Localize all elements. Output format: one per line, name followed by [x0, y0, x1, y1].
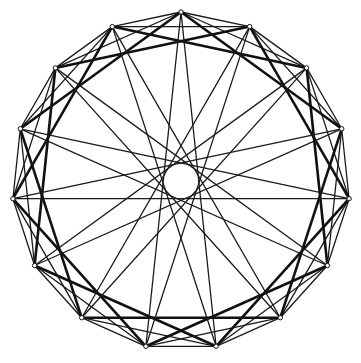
- edge-step-7: [55, 68, 327, 266]
- edge-step-3: [35, 266, 217, 347]
- edge-step-3: [181, 12, 342, 129]
- vertices-group: [11, 10, 352, 349]
- edge-step-3: [216, 199, 349, 347]
- vertex-node: [32, 263, 36, 267]
- vertex-node: [179, 10, 183, 14]
- edge-step-7: [35, 68, 307, 266]
- edge-step-3: [13, 199, 146, 347]
- vertex-node: [214, 344, 218, 348]
- edge-step-3: [146, 266, 328, 347]
- edge-step-1: [216, 318, 280, 347]
- edge-step-2: [280, 199, 349, 318]
- edge-step-2: [216, 266, 327, 347]
- edge-step-1: [35, 266, 82, 318]
- vertex-node: [325, 263, 329, 267]
- edge-step-3: [20, 12, 181, 129]
- edge-step-3: [280, 129, 341, 318]
- edge-step-2: [55, 12, 181, 68]
- edge-step-2: [20, 27, 112, 129]
- vertex-node: [53, 66, 57, 70]
- edge-step-1: [280, 266, 327, 318]
- edge-step-3: [13, 27, 112, 199]
- edge-step-2: [13, 199, 82, 318]
- vertex-node: [248, 24, 252, 28]
- edge-step-7: [181, 12, 216, 346]
- vertex-node: [278, 316, 282, 320]
- vertex-node: [110, 24, 114, 28]
- edge-step-7: [146, 12, 181, 346]
- edge-step-3: [20, 129, 81, 318]
- vertex-node: [340, 127, 344, 131]
- edge-step-2: [181, 12, 307, 68]
- vertex-node: [144, 344, 148, 348]
- edge-step-1: [82, 318, 146, 347]
- edges-group: [13, 12, 349, 346]
- edge-step-2: [250, 27, 342, 129]
- vertex-node: [347, 197, 351, 201]
- diagram-canvas: [0, 0, 361, 363]
- vertex-node: [11, 197, 15, 201]
- vertex-node: [80, 316, 84, 320]
- vertex-node: [18, 127, 22, 131]
- edge-step-7: [35, 129, 342, 266]
- edge-step-3: [250, 27, 349, 199]
- edge-step-2: [35, 266, 146, 347]
- edge-step-7: [20, 129, 327, 266]
- vertex-node: [304, 66, 308, 70]
- star-polygon-graph: [0, 0, 361, 363]
